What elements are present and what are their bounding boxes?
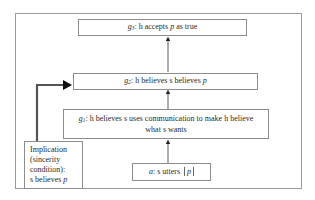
impl-line-4: s believes [30,175,63,184]
node-text-after: as true [174,22,197,31]
node-var: p [203,76,207,85]
impl-line-3: condition): [30,165,67,175]
node-implication: Implication (sincerity condition): s bel… [24,141,83,189]
thick-arrowhead-icon [63,80,72,90]
impl-line-2: (sincerity [30,155,67,165]
node-var: p [187,167,191,176]
node-text: : h believes s uses communication to mak… [86,114,254,135]
node-text: : h believes s believes [131,76,203,85]
node-var: p [63,175,67,184]
node-g3: g3: h accepts p as true [78,19,247,36]
impl-line-1: Implication [30,145,67,155]
node-text: : s utters [153,167,182,176]
arrow-impl-to-g2 [37,85,64,141]
quoted-proposition: p [184,167,194,176]
node-text: : h accepts [134,22,170,31]
node-g2: g2: h believes s believes p [73,73,258,90]
node-a: a: s utters p [132,163,211,181]
node-g1: g1: h believes s uses communication to m… [63,109,269,139]
